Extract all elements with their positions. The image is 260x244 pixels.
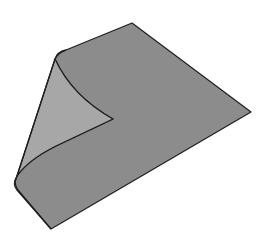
curled-sheet-illustration [0, 0, 260, 244]
illustration-canvas [0, 0, 260, 244]
